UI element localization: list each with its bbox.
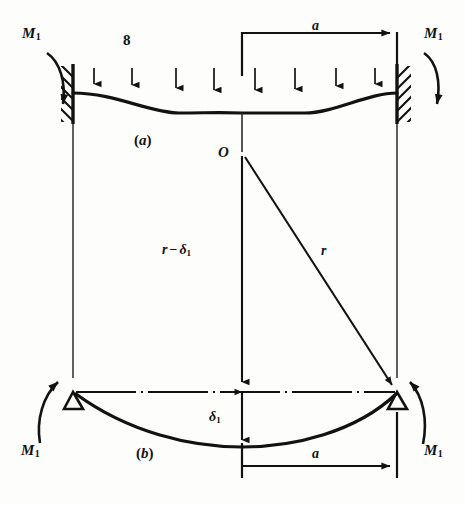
label-radius: r	[321, 244, 326, 258]
dimension-a-upper	[242, 32, 397, 76]
beam-deflection-figure: M1 M1 8 a (a) O r−δ1 r δ1 M1 M1 (b) a	[0, 0, 465, 505]
deflected-beam-curve-b	[76, 394, 396, 447]
deflected-beam-curve-a	[73, 93, 397, 113]
label-deflection-delta: δ1	[209, 410, 221, 425]
figure-drawing-canvas	[0, 0, 465, 505]
label-moment-left-b: M1	[21, 443, 40, 459]
radius-line	[245, 157, 392, 385]
label-dimension-a-lower: a	[312, 447, 319, 461]
label-dimension-a-upper: a	[312, 19, 319, 33]
moment-arrow-right-b	[410, 382, 425, 444]
label-part-a: (a)	[134, 133, 152, 148]
label-moment-left-a: M1	[22, 26, 41, 42]
label-radius-minus-delta: r−δ1	[162, 243, 191, 258]
label-part-b: (b)	[136, 446, 154, 461]
label-moment-right-b: M1	[424, 443, 443, 459]
moment-arrow-left-b	[39, 382, 58, 443]
distributed-load-arrows	[94, 68, 375, 90]
pin-support-left	[64, 392, 83, 409]
label-center-point-o: O	[218, 145, 229, 160]
moment-arrow-left-a	[47, 53, 64, 104]
label-moment-right-a: M1	[424, 26, 443, 42]
moment-arrow-right-a	[424, 53, 438, 104]
hatch-lines-right	[397, 62, 413, 133]
label-distributed-load: 8	[123, 33, 131, 48]
fixed-support-right	[397, 62, 413, 133]
